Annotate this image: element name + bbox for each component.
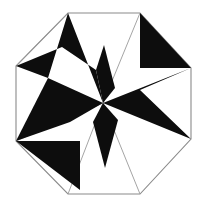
abstract-star-figure xyxy=(0,0,206,207)
figure-canvas: Abstract Octagonal Star Figure Black and… xyxy=(0,0,206,207)
